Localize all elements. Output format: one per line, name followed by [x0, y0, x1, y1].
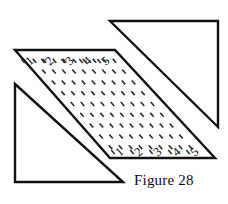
- figure-caption: Figure 28: [134, 172, 194, 189]
- geometry-diagram: 12345 12345: [0, 0, 228, 204]
- figure-container: 12345 12345 Figure 28: [0, 0, 228, 204]
